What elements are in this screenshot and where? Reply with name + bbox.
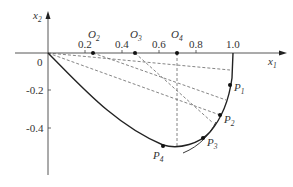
axes: [15, 11, 287, 175]
point-p1: [228, 83, 232, 87]
center-o2: [91, 51, 95, 55]
point-p4: [161, 144, 165, 148]
x-axis-label: x1: [267, 55, 277, 70]
label-p1: P1: [233, 81, 244, 96]
label-o4: O4: [171, 28, 183, 43]
y-axis-arrow-icon: [46, 11, 51, 19]
trajectory-curve: [48, 53, 233, 147]
x-tick-1.0: 1.0: [226, 38, 240, 50]
trajectory-points: P1 P2 P3 P4: [152, 81, 244, 164]
x-axis-arrow-icon: [279, 51, 287, 56]
trajectory-diagram: 0.2 0.4 0.6 0.8 1.0 0 -0.2 -0.4 x2 x1 O2…: [0, 0, 293, 187]
label-p3: P3: [206, 136, 218, 151]
x-tick-0.4: 0.4: [115, 38, 129, 50]
x-tick-0.8: 0.8: [189, 38, 203, 50]
origin-label: 0: [37, 56, 43, 68]
y-tick-neg-0.2: -0.2: [26, 84, 43, 96]
y-tick-neg-0.4: -0.4: [26, 122, 44, 134]
point-p3: [201, 136, 205, 140]
x-tick-0.6: 0.6: [152, 38, 166, 50]
point-p2: [218, 113, 222, 117]
center-o3: [133, 51, 137, 55]
label-o3: O3: [130, 28, 142, 43]
center-o4: [175, 51, 179, 55]
label-p2: P2: [223, 113, 235, 128]
center-points: O2 O3 O4: [88, 28, 183, 55]
label-p4: P4: [152, 149, 164, 164]
y-axis-label: x2: [32, 9, 42, 24]
